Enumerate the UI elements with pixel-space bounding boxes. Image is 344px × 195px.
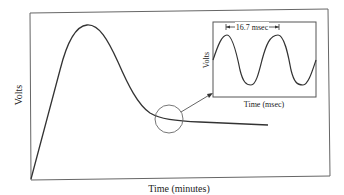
x-axis-label: Time (minutes): [148, 183, 210, 195]
inset-frame: [213, 22, 316, 97]
y-axis-label: Volts: [13, 85, 24, 105]
callout-connector: [181, 94, 211, 112]
inset-y-label: Volts: [202, 52, 211, 68]
arrowhead-icon: [207, 93, 213, 98]
diagram-canvas: 16.7 msec Volts Time (msec) Volts Time (…: [0, 0, 344, 195]
period-label: 16.7 msec: [236, 23, 269, 32]
inset-x-label: Time (msec): [244, 100, 285, 109]
